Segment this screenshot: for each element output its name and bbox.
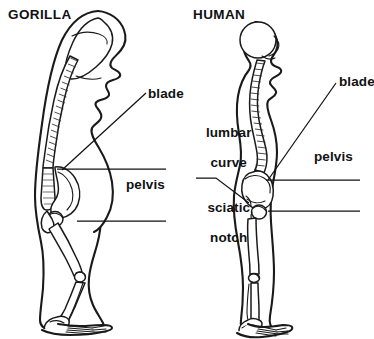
lumbar-curve-line-1: lumbar (206, 125, 252, 140)
sciatic-notch-line-2: notch (210, 230, 247, 245)
human-tibia (251, 283, 259, 322)
lumbar-curve-line-2: curve (210, 155, 247, 170)
human-pelvis-label: pelvis (314, 149, 353, 164)
gorilla-figure (35, 11, 125, 335)
sciatic-notch-line-1: sciatic (207, 200, 250, 215)
gorilla-pelvis-label: pelvis (126, 177, 165, 192)
human-blade-leader (268, 83, 336, 180)
human-panel-title: HUMAN (193, 7, 245, 22)
diagram-artwork (0, 0, 374, 339)
human-blade-label: blade (339, 74, 374, 89)
human-lumbar-curve-label: lumbar curve (190, 110, 252, 185)
anatomy-diagram: GORILLA blade pelvis HUMAN blade lumbar … (0, 0, 374, 339)
human-cranium (240, 22, 276, 58)
human-sciatic-notch-label: sciatic notch (192, 185, 250, 260)
gorilla-panel-title: GORILLA (8, 7, 72, 22)
gorilla-blade-label: blade (148, 86, 184, 101)
